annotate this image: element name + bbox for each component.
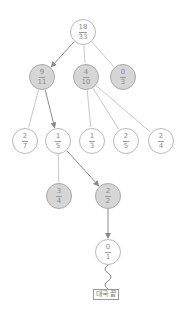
tree-edge (67, 151, 99, 186)
tree-edge (84, 45, 85, 63)
node-wins: 3 (56, 188, 62, 197)
node-wins: 2 (123, 133, 129, 142)
tree-edge (87, 90, 90, 127)
tree-node[interactable]: 1833 (70, 19, 96, 45)
tree-node[interactable]: 22 (95, 183, 121, 209)
node-visits: 5 (56, 142, 60, 150)
tree-node[interactable]: 25 (113, 128, 139, 154)
tree-edges (0, 0, 185, 324)
tree-node[interactable]: 27 (12, 128, 38, 154)
node-wins: 18 (79, 24, 88, 33)
tree-edge (58, 154, 59, 182)
node-wins: 2 (158, 133, 164, 142)
node-visits: 10 (82, 78, 91, 86)
node-visits: 1 (106, 253, 110, 261)
node-wins: 1 (55, 133, 61, 142)
tree-node[interactable]: 13 (79, 128, 105, 154)
tree-edge (92, 42, 114, 67)
node-visits: 2 (106, 197, 110, 205)
tree-node[interactable]: 410 (73, 64, 99, 90)
node-wins: 0 (105, 244, 111, 253)
node-wins: 2 (22, 133, 28, 142)
node-wins: 0 (120, 69, 126, 78)
node-wins: 4 (83, 69, 89, 78)
game-end-box[interactable]: 대국 끝 (93, 289, 119, 300)
tree-edge (45, 90, 54, 128)
node-visits: 4 (159, 142, 163, 150)
tree-edge (51, 42, 74, 67)
tree-node[interactable]: 34 (46, 183, 72, 209)
tree-node[interactable]: 24 (148, 128, 174, 154)
node-visits: 7 (23, 142, 27, 150)
node-wins: 9 (39, 69, 45, 78)
tree-node[interactable]: 15 (45, 128, 71, 154)
node-wins: 2 (105, 188, 111, 197)
node-wins: 1 (89, 133, 95, 142)
node-visits: 3 (121, 78, 125, 86)
node-visits: 4 (57, 197, 61, 205)
tree-node[interactable]: 03 (110, 64, 136, 90)
node-visits: 5 (124, 142, 128, 150)
node-visits: 11 (38, 78, 47, 86)
node-visits: 33 (79, 33, 88, 41)
tree-node[interactable]: 01 (95, 239, 121, 265)
squiggle-connector (105, 265, 111, 289)
tree-node[interactable]: 911 (29, 64, 55, 90)
node-visits: 3 (90, 142, 94, 150)
tree-edge (29, 90, 39, 128)
tree-edge (96, 85, 150, 131)
